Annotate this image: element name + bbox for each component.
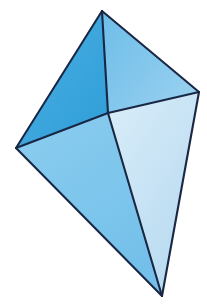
figure-canvas: [0, 0, 207, 304]
polyhedron-figure: [0, 0, 207, 304]
